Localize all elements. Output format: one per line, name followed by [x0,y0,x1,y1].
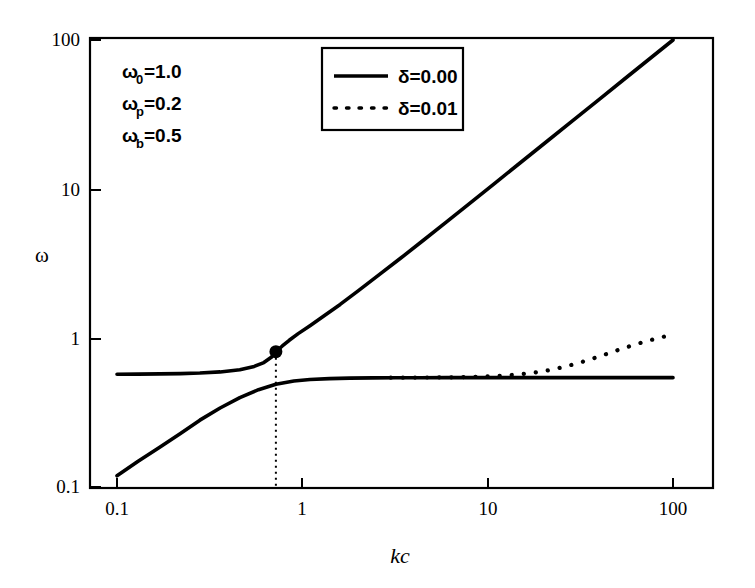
legend-label-1: δ=0.01 [398,98,458,119]
curve-lower-polariton [117,378,673,476]
legend-label-0: δ=0.00 [398,66,458,87]
omegap-annotation-sub: p [136,104,144,119]
omegab-annotation-value: =0.5 [144,125,182,146]
omegab-annotation-sub: b [136,136,144,151]
omega0-annotation-sub: 0 [136,72,143,87]
x-tick-label-0: 0.1 [105,498,129,519]
y-tick-label-1: 1 [71,328,81,349]
x-tick-label-2: 10 [479,498,498,519]
y-tick-label-0: 0.1 [56,476,80,497]
x-axis-ticks [117,478,673,488]
polariton-dispersion-chart: 0.1 1 10 100 100 10 1 0.1 ω kc ω 0 =1.0 … [0,0,755,588]
y-axis-title: ω [35,243,49,267]
y-tick-label-3: 100 [52,29,81,50]
chart-page: 0.1 1 10 100 100 10 1 0.1 ω kc ω 0 =1.0 … [0,0,755,588]
marker-group [269,345,282,487]
y-tick-label-2: 10 [61,179,80,200]
y-axis-ticks [90,40,101,487]
x-axis-title: kc [390,543,410,568]
x-tick-label-3: 100 [659,498,688,519]
omega0-annotation-value: =1.0 [144,61,182,82]
parameter-annotations: ω 0 =1.0 ω p =0.2 ω b =0.5 [122,61,182,151]
anticrossing-marker [269,345,282,358]
curve-lower-polariton-damped [391,335,673,378]
omegap-annotation-value: =0.2 [144,93,182,114]
legend: δ=0.00 δ=0.01 [322,48,463,130]
x-tick-label-1: 1 [297,498,307,519]
